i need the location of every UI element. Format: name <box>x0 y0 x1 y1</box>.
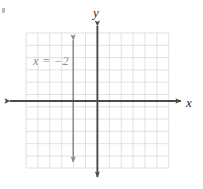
coordinate-plane-canvas <box>0 0 203 189</box>
x-axis-label: x <box>186 96 192 109</box>
graph-figure: y x x = −2 <box>0 0 203 189</box>
line-equation-label: x = −2 <box>33 55 69 67</box>
y-axis-label: y <box>93 6 99 19</box>
